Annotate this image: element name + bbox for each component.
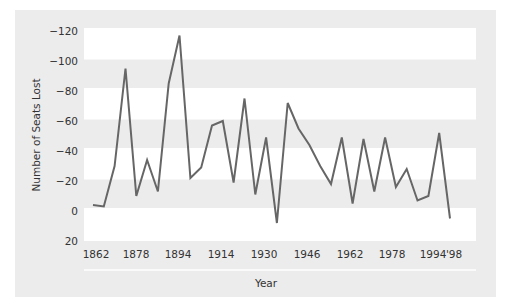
- x-tick-label: 1962: [337, 248, 364, 260]
- x-tick-label: 1946: [294, 248, 321, 260]
- y-axis-title: Number of Seats Lost: [30, 78, 42, 191]
- x-tick-label: '98: [446, 248, 462, 260]
- x-tick-label: 1930: [251, 248, 278, 260]
- y-tick-label: 20: [65, 235, 78, 247]
- y-tick-label: −40: [56, 145, 78, 157]
- x-tick-label: 1914: [208, 248, 235, 260]
- x-axis-title: Year: [254, 277, 278, 289]
- chart: −120−100−80−60−40−20020 1862187818941914…: [0, 0, 507, 308]
- x-tick-label: 1994: [420, 248, 447, 260]
- x-tick-label: 1878: [123, 248, 150, 260]
- x-axis-ticks: 186218781894191419301946196219781994'98: [83, 248, 462, 260]
- x-tick-label: 1862: [83, 248, 110, 260]
- y-tick-label: −120: [49, 25, 78, 37]
- grid-band: [84, 28, 476, 60]
- y-tick-label: −60: [56, 115, 78, 127]
- x-tick-label: 1978: [379, 248, 406, 260]
- y-tick-label: −20: [56, 175, 78, 187]
- x-tick-label: 1894: [165, 248, 192, 260]
- y-tick-label: 0: [71, 205, 78, 217]
- y-tick-label: −80: [56, 85, 78, 97]
- y-tick-label: −100: [49, 55, 78, 67]
- grid-band: [84, 208, 476, 241]
- grid-band: [84, 88, 476, 120]
